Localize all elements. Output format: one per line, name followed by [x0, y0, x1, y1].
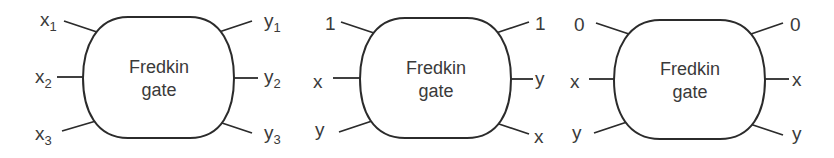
input-label-2: x: [313, 71, 323, 92]
output-label-3: y3: [264, 122, 281, 147]
output-wire-3: [219, 122, 252, 133]
input-label-1: x1: [40, 9, 57, 34]
output-label-1: 1: [535, 13, 546, 34]
output-label-2: y: [535, 68, 545, 89]
gate-control-one: Fredkin gate 1 x y 1 y x: [313, 13, 546, 147]
input-wire-1: [596, 23, 629, 34]
output-label-1: 0: [790, 14, 801, 35]
output-wire-1: [496, 22, 529, 33]
input-wire-1: [64, 21, 97, 32]
gate-label-line1: Fredkin: [129, 57, 189, 77]
gate-control-zero: Fredkin gate 0 x y 0 x y: [570, 14, 802, 144]
gate-body: [83, 17, 234, 138]
gate-body: [614, 20, 765, 139]
output-wire-1: [751, 23, 783, 34]
input-label-2: x2: [35, 66, 52, 91]
gate-label-line1: Fredkin: [406, 58, 466, 78]
fredkin-diagram: Fredkin gate x1 x2 x3 y1 y2 y3 Fredkin g…: [0, 0, 834, 158]
input-label-1: 1: [325, 13, 336, 34]
input-wire-3: [594, 122, 627, 133]
output-label-1: y1: [264, 10, 281, 35]
input-wire-3: [339, 121, 372, 132]
gate-general: Fredkin gate x1 x2 x3 y1 y2 y3: [35, 9, 281, 148]
output-wire-3: [496, 123, 529, 134]
output-wire-3: [750, 124, 783, 135]
input-label-3: x3: [35, 123, 52, 148]
output-label-2: y2: [264, 66, 281, 91]
output-label-2: x: [792, 69, 802, 90]
gate-body: [360, 18, 511, 138]
input-label-2: x: [570, 71, 580, 92]
input-wire-3: [62, 121, 96, 131]
input-wire-1: [341, 22, 374, 33]
gate-label-line2: gate: [672, 82, 707, 102]
input-label-1: 0: [574, 14, 585, 35]
gate-label-line2: gate: [418, 81, 453, 101]
gate-label-line1: Fredkin: [660, 59, 720, 79]
output-label-3: x: [534, 126, 544, 147]
input-label-3: y: [315, 119, 325, 140]
input-label-3: y: [572, 122, 582, 143]
output-label-3: y: [792, 123, 802, 144]
gate-label-line2: gate: [141, 80, 176, 100]
output-wire-1: [219, 21, 252, 32]
